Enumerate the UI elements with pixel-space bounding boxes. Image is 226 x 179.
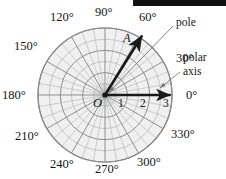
pole-annotation: pole <box>176 17 196 29</box>
radial-tick-3: 3 <box>163 98 169 110</box>
angle-label-60: 60° <box>139 11 157 24</box>
angle-label-240: 240° <box>50 158 74 171</box>
origin-label-o: O <box>93 97 102 110</box>
radial-tick-2: 2 <box>140 98 146 110</box>
angle-label-270: 270° <box>95 163 119 176</box>
angle-label-330: 330° <box>171 128 195 141</box>
angle-label-300: 300° <box>137 156 161 169</box>
angle-label-150: 150° <box>14 40 38 53</box>
angle-label-180: 180° <box>2 89 26 102</box>
angle-label-120: 120° <box>50 11 74 24</box>
radial-tick-1: 1 <box>118 98 124 110</box>
polar-axis-annotation-line2: axis <box>183 66 202 78</box>
point-label-a: A <box>123 32 131 45</box>
polar-axis-annotation-line1: polar <box>183 52 207 64</box>
angle-label-0: 0° <box>186 89 197 102</box>
polar-diagram-figure: 0° 30° 60° 90° 120° 150° 180° 210° 240° … <box>0 0 226 179</box>
angle-label-210: 210° <box>15 130 39 143</box>
angle-label-90: 90° <box>95 6 113 19</box>
